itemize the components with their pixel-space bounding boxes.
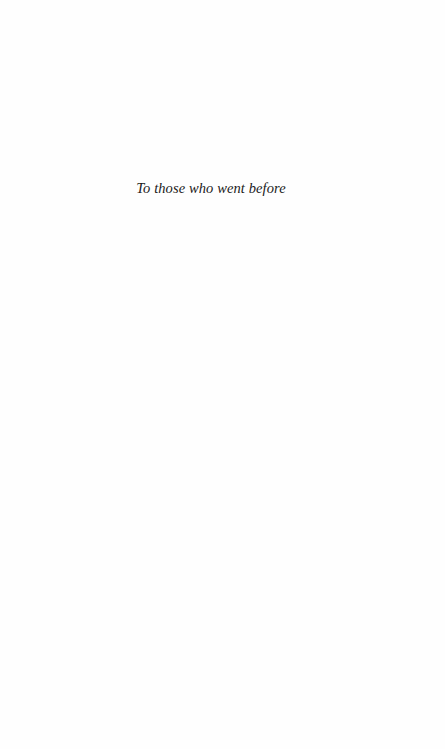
- book-page: To those who went before: [0, 0, 445, 749]
- dedication-text: To those who went before: [0, 178, 422, 198]
